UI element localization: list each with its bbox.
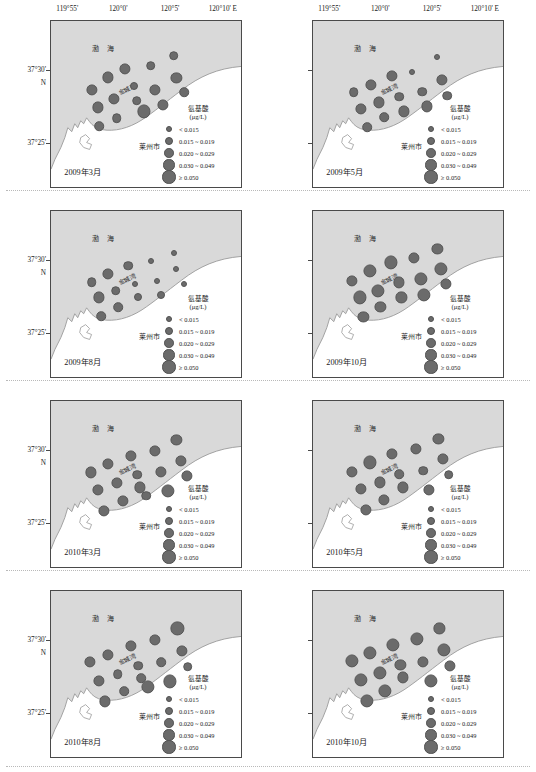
legend-symbol: [421, 550, 441, 563]
legend-bubble: [424, 360, 437, 373]
legend-row: ≥ 0.050: [159, 361, 237, 373]
data-bubble: [130, 82, 138, 90]
legend-bubble: [162, 360, 175, 373]
legend-label: 0.020 ~ 0.029: [179, 340, 214, 347]
legend-bubble: [165, 137, 173, 145]
legend-symbol: [159, 740, 179, 753]
legend-row: < 0.015: [159, 123, 237, 135]
data-bubble: [409, 69, 415, 75]
legend-bubble: [166, 696, 172, 702]
legend-label: < 0.015: [441, 126, 461, 133]
data-bubble: [181, 281, 187, 287]
data-bubble: [417, 87, 427, 97]
legend-title: 氨基酸(μg/L): [421, 295, 499, 311]
legend-title-line1: 氨基酸: [159, 295, 237, 303]
map-frame: 渤 海金城湾莱州市氨基酸(μg/L)< 0.0150.015 ~ 0.0190.…: [50, 210, 242, 378]
legend-row: 0.030 ~ 0.049: [159, 539, 237, 551]
panel-date-label: 2009年5月: [326, 165, 362, 177]
legend-symbol: [421, 170, 441, 183]
data-bubble: [134, 661, 144, 671]
estuary-detail: [342, 705, 354, 720]
legend-row: 0.015 ~ 0.019: [421, 515, 499, 527]
legend-bubble: [425, 539, 436, 550]
legend-bubble: [427, 707, 435, 715]
legend-label: 0.020 ~ 0.029: [179, 150, 214, 157]
latitude-axis-labels: 37°30'37°25'N: [6, 574, 50, 764]
longitude-tick-label: 120°10' E: [209, 5, 237, 13]
legend-title: 氨基酸(μg/L): [159, 675, 237, 691]
sea-name-label: 渤 海: [92, 43, 117, 53]
legend-bubble: [426, 148, 436, 158]
panel-p8: 渤 海金城湾莱州市氨基酸(μg/L)< 0.0150.015 ~ 0.0190.…: [268, 574, 516, 764]
legend-row: 0.030 ~ 0.049: [159, 729, 237, 741]
panel-p4: 渤 海金城湾莱州市氨基酸(μg/L)< 0.0150.015 ~ 0.0190.…: [268, 194, 516, 384]
legend-bubble: [162, 550, 175, 563]
latitude-tick-label: 37°25': [27, 519, 46, 527]
legend-row: 0.015 ~ 0.019: [159, 325, 237, 337]
latitude-hemisphere-label: N: [41, 269, 46, 277]
legend-symbol: [421, 316, 441, 322]
legend-bubble: [163, 159, 174, 170]
legend-bubble: [163, 729, 174, 740]
legend-label: < 0.015: [441, 506, 461, 513]
legend-row: < 0.015: [421, 123, 499, 135]
latitude-tick-label: 37°30': [27, 636, 46, 644]
legend-title-line2: (μg/L): [421, 303, 499, 311]
legend-bubble: [425, 349, 436, 360]
sea-name-label: 渤 海: [354, 43, 379, 53]
legend-label: 0.030 ~ 0.049: [179, 352, 214, 359]
latitude-hemisphere-label: N: [41, 459, 46, 467]
legend-symbol: [421, 137, 441, 145]
legend-row: ≥ 0.050: [421, 361, 499, 373]
map-frame: 渤 海金城湾莱州市氨基酸(μg/L)< 0.0150.015 ~ 0.0190.…: [50, 20, 242, 188]
legend-bubble: [426, 528, 436, 538]
legend-label: 0.015 ~ 0.019: [441, 138, 476, 145]
data-bubble: [87, 278, 97, 288]
data-bubble: [133, 470, 143, 480]
longitude-tick-label: 120°10' E: [471, 5, 499, 13]
legend-symbol: [421, 528, 441, 538]
legend: 氨基酸(μg/L)< 0.0150.015 ~ 0.0190.020 ~ 0.0…: [421, 105, 499, 183]
legend-bubble: [428, 316, 434, 322]
legend-symbol: [421, 338, 441, 348]
legend-title-line1: 氨基酸: [159, 675, 237, 683]
legend-label: 0.015 ~ 0.019: [441, 328, 476, 335]
legend: 氨基酸(μg/L)< 0.0150.015 ~ 0.0190.020 ~ 0.0…: [159, 105, 237, 183]
data-bubble: [169, 51, 179, 61]
longitude-tick-label: 120°5': [161, 5, 180, 13]
legend-bubble: [166, 316, 172, 322]
data-bubble: [173, 266, 179, 272]
legend-symbol: [159, 696, 179, 702]
legend-symbol: [421, 159, 441, 170]
legend-row: 0.020 ~ 0.029: [159, 527, 237, 539]
row-separator: [6, 380, 530, 381]
map-frame: 渤 海金城湾莱州市氨基酸(μg/L)< 0.0150.015 ~ 0.0190.…: [50, 400, 242, 568]
panel-p1: 119°55'120°0'120°5'120°10' E37°30'37°25'…: [6, 4, 254, 194]
legend-symbol: [421, 718, 441, 728]
legend-bubble: [165, 707, 173, 715]
legend-label: 0.015 ~ 0.019: [179, 708, 214, 715]
legend-symbol: [421, 707, 441, 715]
legend-label: < 0.015: [441, 696, 461, 703]
legend-symbol: [421, 729, 441, 740]
legend-title: 氨基酸(μg/L): [159, 295, 237, 311]
legend-label: ≥ 0.050: [441, 174, 460, 181]
legend-row: ≥ 0.050: [159, 171, 237, 183]
latitude-hemisphere-label: N: [41, 79, 46, 87]
estuary-detail: [342, 135, 354, 150]
legend-row: < 0.015: [421, 693, 499, 705]
legend-symbol: [159, 159, 179, 170]
legend-symbol: [159, 718, 179, 728]
data-bubble: [349, 88, 359, 98]
legend-bubble: [428, 696, 434, 702]
map-frame: 渤 海金城湾莱州市氨基酸(μg/L)< 0.0150.015 ~ 0.0190.…: [312, 590, 504, 758]
legend-bubble: [427, 137, 435, 145]
data-bubble: [111, 286, 121, 296]
legend-row: 0.015 ~ 0.019: [421, 135, 499, 147]
legend-label: ≥ 0.050: [179, 174, 198, 181]
legend-row: < 0.015: [159, 503, 237, 515]
latitude-tick-label: 37°25': [27, 329, 46, 337]
legend-bubble: [166, 126, 172, 132]
legend-bubble: [165, 517, 173, 525]
legend-title-line1: 氨基酸: [421, 675, 499, 683]
